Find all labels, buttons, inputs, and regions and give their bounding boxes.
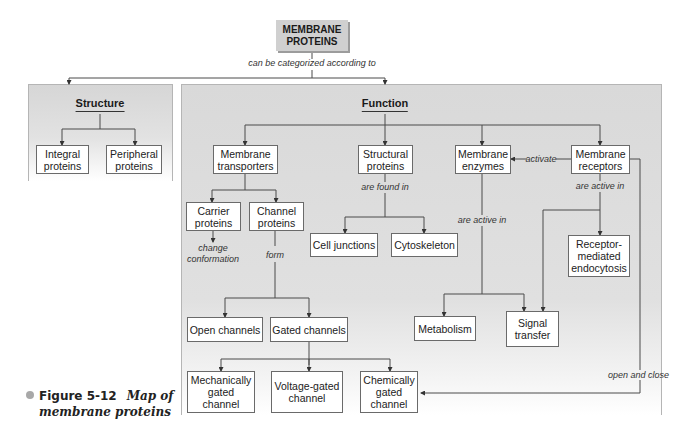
node-membrane-transporters: Membrane transporters — [213, 145, 278, 174]
figure-title-line2: membrane proteins — [26, 404, 174, 420]
node-cytoskeleton: Cytoskeleton — [391, 233, 458, 257]
node-cell-junctions: Cell junctions — [310, 233, 378, 257]
function-title: Function — [362, 97, 408, 112]
node-signal-transfer: Signal transfer — [506, 311, 559, 347]
link-label-change-conformation: change conformation — [187, 243, 239, 265]
link-label-receptors-are-active-in: are active in — [576, 181, 625, 192]
node-membrane-receptors: Membrane receptors — [571, 145, 630, 174]
node-chemically-gated-channel: Chemically gated channel — [360, 371, 418, 413]
figure-number: Figure 5-12 — [39, 389, 117, 403]
link-label-are-found-in: are found in — [361, 182, 409, 193]
node-membrane-enzymes: Membrane enzymes — [455, 145, 511, 174]
link-label-form: form — [266, 250, 284, 261]
link-label-open-and-close: open and close — [608, 370, 669, 381]
membrane-proteins-root: MEMBRANE PROTEINS — [276, 20, 348, 51]
node-integral-proteins: Integral proteins — [36, 145, 89, 174]
figure-caption: Figure 5-12Map of membrane proteins — [26, 387, 174, 420]
link-label-categorized: can be categorized according to — [248, 58, 376, 69]
figure-title-line1: Map of — [127, 389, 174, 403]
node-channel-proteins: Channel proteins — [249, 202, 304, 231]
node-metabolism: Metabolism — [414, 316, 476, 341]
bullet-icon — [26, 391, 34, 399]
node-voltage-gated-channel: Voltage-gated channel — [271, 371, 343, 413]
node-open-channels: Open channels — [187, 317, 263, 342]
structure-title: Structure — [76, 97, 125, 112]
node-receptor-mediated-endocytosis: Receptor- mediated endocytosis — [568, 235, 630, 277]
link-label-enzymes-are-active-in: are active in — [458, 215, 507, 226]
node-structural-proteins: Structural proteins — [358, 145, 413, 174]
node-peripheral-proteins: Peripheral proteins — [106, 145, 162, 174]
node-mechanically-gated-channel: Mechanically gated channel — [187, 371, 255, 413]
node-carrier-proteins: Carrier proteins — [186, 202, 241, 231]
link-label-activate: activate — [525, 154, 556, 165]
node-gated-channels: Gated channels — [270, 317, 348, 342]
